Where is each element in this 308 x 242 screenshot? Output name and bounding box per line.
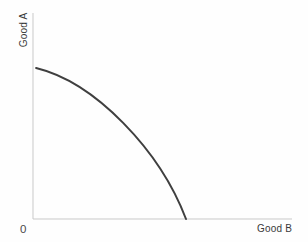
- origin-label: 0: [20, 223, 26, 235]
- x-axis-label: Good B: [257, 223, 292, 234]
- ppf-figure: Good A Good B 0: [0, 0, 308, 242]
- ppf-chart: [0, 0, 308, 242]
- ppf-curve: [36, 68, 186, 219]
- y-axis-label: Good A: [18, 13, 29, 48]
